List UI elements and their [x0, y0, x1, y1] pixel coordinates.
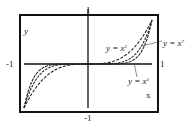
tick-x-left: -1: [6, 59, 14, 69]
tick-x-right: 1: [160, 59, 165, 69]
tick-y-bottom: -1: [84, 113, 92, 123]
label-x5: y = x5: [127, 76, 150, 86]
label-x7: y = x7: [162, 38, 185, 48]
y-axis-label: y: [23, 26, 28, 36]
tick-y-top: 1: [86, 5, 91, 15]
leader-line-x5: [134, 63, 137, 77]
label-x3: y = x3: [105, 43, 128, 53]
power-functions-chart: 1 -1 -1 1 y x y = x3 y = x7 y = x5: [0, 0, 196, 124]
x-axis-label: x: [146, 90, 151, 100]
